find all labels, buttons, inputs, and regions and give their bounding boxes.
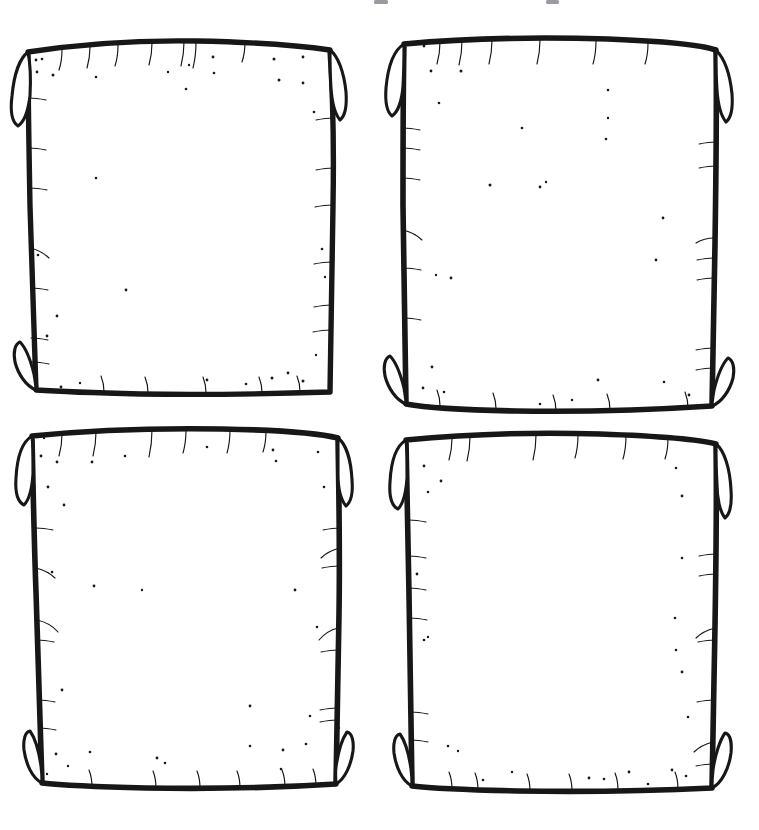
panels-svg (0, 0, 759, 830)
panel-1-border (28, 41, 333, 395)
panel-1[interactable] (11, 41, 346, 395)
panel-grid (0, 0, 759, 830)
panel-2-border (403, 38, 716, 411)
top-mark-right-icon (546, 0, 559, 4)
panel-2[interactable] (384, 38, 734, 411)
panel-3[interactable] (16, 429, 353, 789)
panel-4[interactable] (390, 433, 731, 791)
top-mark-left-icon (374, 0, 388, 4)
panel-3-border (32, 429, 339, 789)
panel-4-border (406, 433, 716, 791)
drawing-canvas (0, 0, 759, 830)
